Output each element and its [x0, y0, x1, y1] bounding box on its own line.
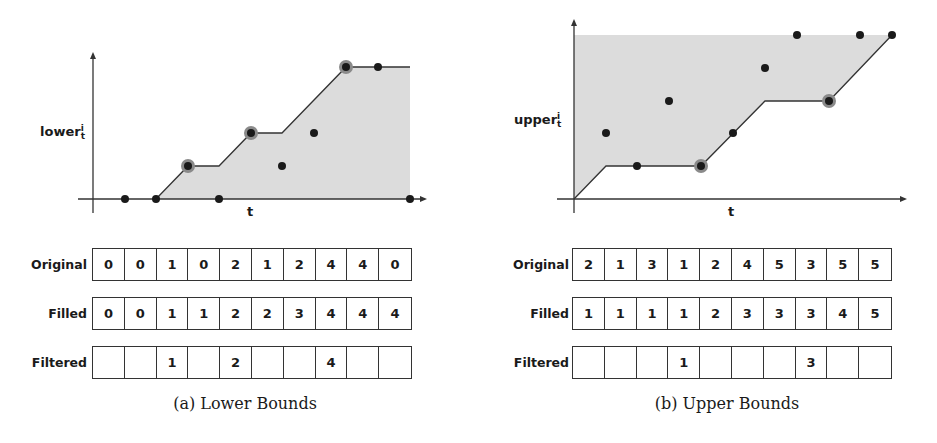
table-cell: 1	[605, 249, 637, 280]
table-cell	[605, 347, 637, 378]
table-cell: 0	[93, 249, 125, 280]
lower-row-label-filtered: Filtered	[2, 355, 87, 370]
ylabel-sub: t	[81, 132, 85, 140]
table-cell: 2	[573, 249, 605, 280]
ylabel-indices: it	[557, 112, 561, 128]
table-cell: 1	[252, 249, 284, 280]
lower-bounds-plot	[0, 0, 468, 230]
table-cell: 2	[700, 249, 732, 280]
table-cell: 3	[637, 249, 669, 280]
table-cell	[347, 347, 379, 378]
table-cell	[827, 347, 859, 378]
table-cell: 1	[637, 298, 669, 329]
lower-row-filled: 0 0 1 1 2 2 3 4 4 4	[92, 297, 412, 330]
table-cell	[732, 347, 764, 378]
lower-x-axis-arrow	[420, 196, 427, 202]
table-cell: 4	[316, 298, 348, 329]
table-cell: 3	[796, 347, 828, 378]
upper-y-axis-label: upperit	[514, 112, 561, 129]
lower-caption: (a) Lower Bounds	[95, 394, 395, 413]
ylabel-indices: it	[81, 124, 85, 140]
table-cell: 5	[859, 298, 891, 329]
upper-row-original: 2 1 3 1 2 4 5 3 5 5	[572, 248, 892, 281]
table-cell: 2	[252, 298, 284, 329]
upper-row-label-filled: Filled	[484, 306, 569, 321]
lower-row-filtered: 1 2 4	[92, 346, 412, 379]
table-cell	[284, 347, 316, 378]
lower-row-original: 0 0 1 0 2 1 2 4 4 0	[92, 248, 412, 281]
upper-caption: (b) Upper Bounds	[577, 394, 877, 413]
table-cell	[573, 347, 605, 378]
table-cell: 0	[125, 249, 157, 280]
table-cell: 5	[764, 249, 796, 280]
table-cell: 2	[220, 347, 252, 378]
table-cell: 4	[347, 249, 379, 280]
upper-shaded-region	[574, 35, 892, 199]
lower-bounds-panel: lowerit t Original 0 0 1 0 2 1 2 4 4 0 F…	[0, 0, 468, 443]
table-cell: 1	[188, 298, 220, 329]
ylabel-sub: t	[557, 120, 561, 128]
table-cell: 5	[859, 249, 891, 280]
table-cell: 4	[316, 249, 348, 280]
lower-y-axis-arrow	[90, 52, 96, 59]
table-cell: 4	[732, 249, 764, 280]
table-cell	[859, 347, 891, 378]
table-cell: 5	[827, 249, 859, 280]
upper-row-filtered: 1 3	[572, 346, 892, 379]
table-cell	[188, 347, 220, 378]
table-cell: 1	[157, 249, 189, 280]
table-cell: 4	[379, 298, 411, 329]
table-cell	[700, 347, 732, 378]
table-cell: 3	[284, 298, 316, 329]
table-cell: 3	[732, 298, 764, 329]
upper-bounds-panel: upperit t Original 2 1 3 1 2 4 5 3 5 5 F…	[469, 0, 937, 443]
table-cell: 3	[796, 249, 828, 280]
table-cell: 2	[220, 249, 252, 280]
upper-row-label-filtered: Filtered	[484, 355, 569, 370]
table-cell: 1	[157, 298, 189, 329]
lower-shaded-region	[156, 67, 410, 199]
ylabel-main: lower	[40, 124, 81, 139]
table-cell: 0	[379, 249, 411, 280]
table-cell: 1	[605, 298, 637, 329]
table-cell: 3	[796, 298, 828, 329]
upper-y-axis-arrow	[571, 19, 577, 26]
table-cell: 0	[125, 298, 157, 329]
table-cell: 1	[668, 249, 700, 280]
table-cell: 4	[316, 347, 348, 378]
table-cell	[125, 347, 157, 378]
table-cell	[764, 347, 796, 378]
upper-x-axis-label: t	[728, 204, 734, 219]
table-cell: 1	[573, 298, 605, 329]
table-cell: 2	[220, 298, 252, 329]
table-cell: 1	[157, 347, 189, 378]
table-cell: 0	[93, 298, 125, 329]
table-cell: 1	[668, 347, 700, 378]
lower-x-axis-label: t	[247, 204, 253, 219]
table-cell: 2	[284, 249, 316, 280]
table-cell: 0	[188, 249, 220, 280]
lower-y-axis-label: lowerit	[40, 124, 85, 141]
table-cell: 4	[347, 298, 379, 329]
upper-row-label-original: Original	[484, 257, 569, 272]
lower-row-label-filled: Filled	[2, 306, 87, 321]
upper-row-filled: 1 1 1 1 2 3 3 3 4 5	[572, 297, 892, 330]
ylabel-main: upper	[514, 112, 557, 127]
table-cell	[379, 347, 411, 378]
table-cell: 1	[668, 298, 700, 329]
table-cell	[252, 347, 284, 378]
table-cell: 3	[764, 298, 796, 329]
table-cell	[637, 347, 669, 378]
upper-x-axis-arrow	[900, 196, 907, 202]
lower-row-label-original: Original	[2, 257, 87, 272]
table-cell: 4	[827, 298, 859, 329]
table-cell: 2	[700, 298, 732, 329]
table-cell	[93, 347, 125, 378]
